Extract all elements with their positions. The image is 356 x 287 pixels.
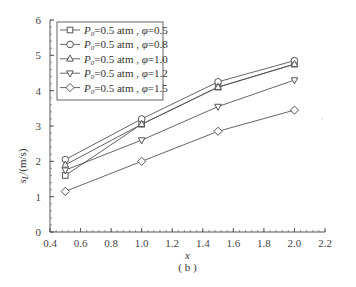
diamond-marker-icon — [214, 127, 222, 135]
y-tick-label: 5 — [36, 49, 42, 61]
y-tick-label: 2 — [36, 155, 42, 167]
diamond-marker-icon — [61, 187, 69, 195]
legend-label: P0=0.5 atm , φ=1.0 — [83, 53, 168, 67]
y-tick-label: 0 — [36, 226, 42, 238]
x-tick-label: 1.2 — [165, 237, 179, 249]
y-axis-label: sL/(m/s) — [16, 148, 30, 183]
legend-label: P0=0.5 atm , φ=0.8 — [83, 38, 168, 52]
x-tick-label: 0.4 — [43, 237, 57, 249]
y-tick-label: 1 — [36, 191, 42, 203]
series-diamond — [61, 106, 298, 195]
x-tick-label: 1.8 — [257, 237, 271, 249]
x-axis-label: x — [184, 249, 190, 261]
legend-label: P0=0.5 atm , φ=1.5 — [83, 82, 168, 96]
x-tick-label: 2.2 — [318, 237, 332, 249]
square-marker-icon — [67, 27, 73, 33]
x-tick-label: 1.4 — [196, 237, 210, 249]
legend-label: P0=0.5 atm , φ=1.2 — [83, 67, 168, 81]
stray-dot — [321, 118, 322, 119]
legend: P0=0.5 atm , φ=0.5P0=0.5 atm , φ=0.8P0=0… — [57, 22, 168, 100]
y-tick-label: 6 — [36, 14, 42, 26]
x-tick-label: 2.0 — [288, 237, 302, 249]
y-tick-label: 3 — [36, 120, 42, 132]
figure-caption: ( b ) — [178, 261, 197, 274]
y-tick-label: 4 — [36, 85, 42, 97]
line-chart: 0.40.60.81.01.21.41.61.82.02.20123456x( … — [0, 0, 356, 287]
x-tick-label: 1.6 — [226, 237, 240, 249]
circle-marker-icon — [67, 41, 74, 48]
x-tick-label: 1.0 — [135, 237, 149, 249]
x-tick-label: 0.8 — [104, 237, 118, 249]
diamond-marker-icon — [290, 106, 298, 114]
legend-label: P0=0.5 atm , φ=0.5 — [83, 24, 168, 38]
diamond-marker-icon — [138, 157, 146, 165]
x-tick-label: 0.6 — [74, 237, 88, 249]
